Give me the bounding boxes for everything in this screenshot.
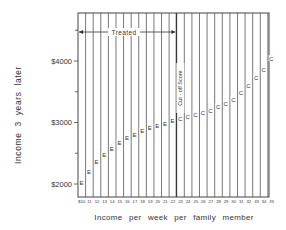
x-tick-label: 19 — [148, 199, 153, 204]
data-point-e: E — [79, 180, 83, 186]
data-point-e: E — [148, 125, 152, 131]
data-point-e: E — [155, 123, 159, 129]
data-point-e: E — [140, 128, 144, 134]
data-point-e: E — [133, 132, 137, 138]
x-tick-label: 34 — [262, 199, 267, 204]
data-point-c: C — [208, 108, 213, 114]
x-tick-label: 29 — [224, 199, 229, 204]
x-tick-label: 15 — [117, 199, 122, 204]
x-tick-label: 21 — [163, 199, 168, 204]
x-tick-label: 32 — [247, 199, 252, 204]
x-tick-label: 30 — [231, 199, 236, 204]
data-point-e: E — [125, 135, 129, 141]
y-tick-label: $4000 — [51, 57, 72, 66]
x-tick-label: 24 — [186, 199, 191, 204]
data-point-e: E — [102, 152, 106, 158]
x-tick-label: 16 — [125, 199, 130, 204]
data-point-c: C — [216, 104, 221, 110]
y-tick-label: $2000 — [51, 180, 72, 189]
x-tick-label: 26 — [201, 199, 206, 204]
data-point-e: E — [117, 140, 121, 146]
data-point-c: C — [201, 110, 206, 116]
x-tick-label: 33 — [254, 199, 259, 204]
plot-area: $101112131415161718192021222324252627282… — [0, 0, 286, 230]
data-point-c: C — [193, 112, 198, 118]
x-tick-label: 13 — [102, 199, 107, 204]
data-point-e: E — [171, 118, 175, 124]
plot-frame — [78, 13, 269, 197]
data-point-e: E — [87, 169, 91, 175]
x-tick-label: 20 — [155, 199, 160, 204]
data-point-c: C — [178, 116, 183, 122]
x-tick-label: 27 — [209, 199, 214, 204]
x-tick-label: 22 — [171, 199, 176, 204]
x-tick-label: 31 — [239, 199, 244, 204]
x-tick-label: 25 — [193, 199, 198, 204]
y-tick-label: $3000 — [51, 118, 72, 127]
data-point-e: E — [110, 146, 114, 152]
x-tick-label: 23 — [178, 199, 183, 204]
x-tick-label: 35 — [269, 199, 274, 204]
data-point-e: E — [95, 159, 99, 165]
x-tick-label: 28 — [216, 199, 221, 204]
treated-label: Treated — [112, 29, 137, 36]
x-tick-label: 14 — [110, 199, 115, 204]
x-tick-label: 17 — [133, 199, 138, 204]
cutoff-label: Cut - off Score — [177, 70, 183, 105]
x-tick-label: $10 — [78, 199, 86, 204]
y-axis-label: Income 3 years later — [13, 66, 23, 164]
y-axis-label-wrap: Income 3 years later — [8, 100, 28, 130]
data-point-c: C — [186, 114, 191, 120]
data-point-c: C — [269, 56, 274, 62]
regression-discontinuity-chart: $101112131415161718192021222324252627282… — [0, 0, 286, 230]
data-point-c: C — [224, 101, 229, 107]
x-tick-label: 18 — [140, 199, 145, 204]
data-point-c: C — [262, 67, 267, 73]
data-point-c: C — [239, 90, 244, 96]
data-point-c: C — [254, 75, 259, 81]
x-axis-label: Income per week per family member — [78, 213, 270, 222]
arrow-left-icon — [79, 30, 83, 34]
data-point-c: C — [246, 83, 251, 89]
data-point-c: C — [231, 97, 236, 103]
arrow-right-icon — [171, 30, 175, 34]
data-point-e: E — [163, 121, 167, 127]
x-tick-label: 12 — [95, 199, 100, 204]
x-tick-label: 11 — [87, 199, 92, 204]
